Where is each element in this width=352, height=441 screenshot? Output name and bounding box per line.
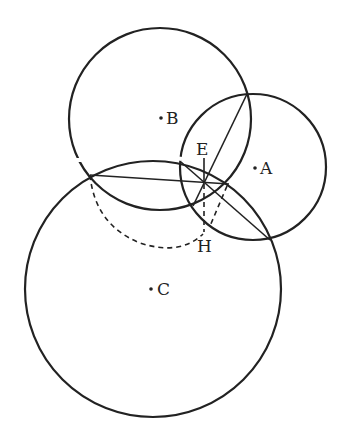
label-h: H xyxy=(197,236,212,256)
segment-diagonal-down xyxy=(181,162,270,240)
label-c: C xyxy=(157,279,170,299)
label-e: E xyxy=(196,139,208,159)
label-a: A xyxy=(259,158,273,178)
geometry-diagram: B A C E H xyxy=(0,0,352,441)
point-b xyxy=(159,116,163,120)
dashed-arc xyxy=(90,175,203,248)
point-a xyxy=(253,166,257,170)
point-c xyxy=(149,287,153,291)
label-b: B xyxy=(166,108,179,128)
circle-c xyxy=(25,161,281,417)
circle-a xyxy=(180,94,326,240)
